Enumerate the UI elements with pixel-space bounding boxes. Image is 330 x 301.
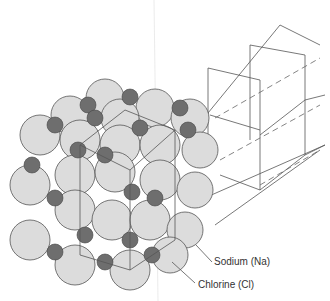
chlorine-label: Chlorine (Cl) [198, 279, 254, 290]
sodium-leader-line [196, 245, 212, 262]
nacl-lattice-diagram: Sodium (Na) Chlorine (Cl) [0, 0, 330, 301]
sodium-label: Sodium (Na) [214, 256, 270, 267]
atoms [10, 79, 218, 290]
lattice-illustration [0, 0, 330, 301]
